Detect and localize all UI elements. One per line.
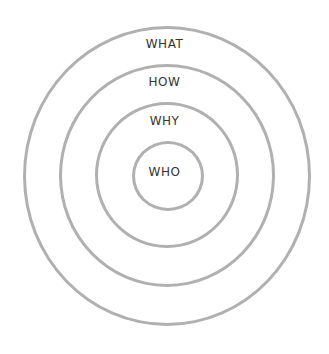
label-what: WHAT (0, 37, 329, 51)
label-who: WHO (0, 165, 329, 179)
label-why: WHY (0, 114, 329, 128)
label-how: HOW (0, 75, 329, 89)
